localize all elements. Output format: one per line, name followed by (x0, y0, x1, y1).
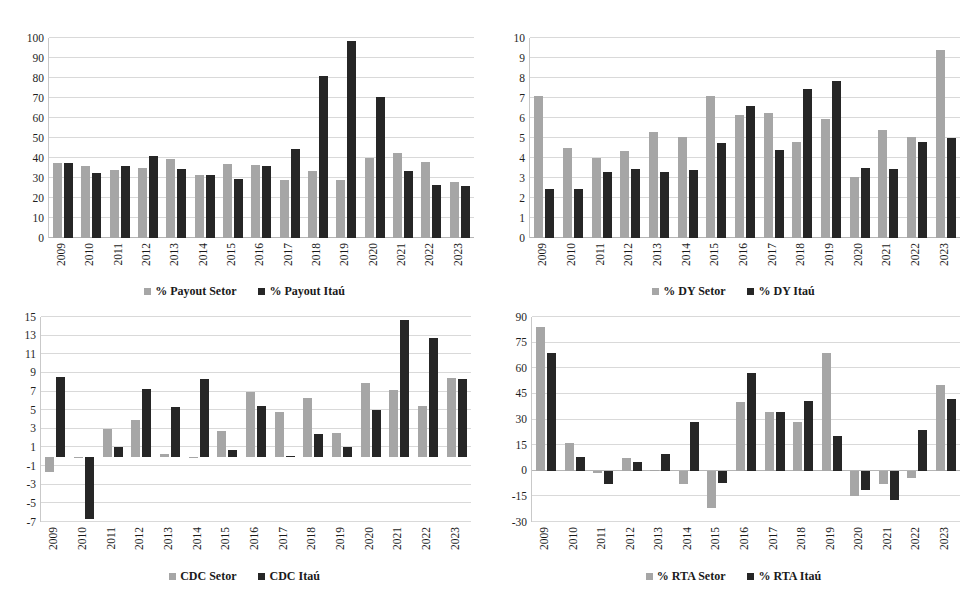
bar-group (442, 317, 471, 522)
legend-item[interactable]: % Payout Itaú (258, 284, 344, 299)
bar-setor (793, 422, 802, 471)
bar-group (789, 317, 818, 522)
y-tick-label: -5 (26, 498, 36, 510)
bar-itau (947, 399, 956, 471)
bar-itau (776, 412, 785, 471)
bar-setor (217, 431, 226, 457)
bar-setor (81, 166, 90, 238)
bar-setor (649, 132, 658, 238)
x-tick: 2010 (69, 525, 98, 563)
x-tick: 2012 (615, 241, 644, 279)
y-tick-label: 5 (519, 132, 525, 144)
bar-itau (718, 471, 727, 483)
bar-setor (878, 130, 887, 238)
bar-itau (114, 447, 123, 456)
bar-setor (308, 171, 317, 238)
x-tick: 2013 (645, 525, 674, 563)
legend-item[interactable]: CDC Setor (169, 569, 236, 584)
x-tick-label: 2010 (568, 527, 580, 550)
x-tick-label: 2017 (767, 243, 779, 266)
x-tick-label: 2013 (163, 527, 175, 550)
legend-item[interactable]: % RTA Setor (646, 569, 726, 584)
x-tick-label: 2010 (85, 243, 97, 266)
bar-group (385, 317, 414, 522)
bar-setor (907, 471, 916, 478)
bar-setor (189, 457, 198, 458)
bar-itau (461, 186, 470, 238)
x-tick-label: 2012 (625, 527, 637, 550)
x-tick: 2021 (388, 241, 416, 279)
x-tick: 2017 (269, 525, 298, 563)
chart-panel-rta: -30-150153045607590 20092010201120122013… (489, 307, 978, 615)
bar-itau (631, 169, 640, 238)
x-axis-labels-rta: 2009201020112012201320142015201620172018… (531, 525, 959, 563)
x-tick: 2009 (529, 241, 558, 279)
bar-setor (138, 168, 147, 238)
y-tick-label: 2 (519, 192, 525, 204)
x-tick-label: 2019 (340, 243, 352, 266)
bar-group (646, 317, 675, 522)
legend-item[interactable]: CDC Itaú (258, 569, 319, 584)
bar-itau (347, 41, 356, 238)
y-tick-label: 0 (519, 232, 525, 244)
legend-item[interactable]: % DY Itaú (747, 284, 814, 299)
y-tick-label: 7 (519, 92, 525, 104)
x-tick: 2015 (212, 525, 241, 563)
legend-swatch-setor (169, 573, 176, 580)
x-tick-label: 2020 (364, 527, 376, 550)
bar-group (134, 38, 162, 238)
bar-itau (661, 454, 670, 471)
bar-group (732, 317, 761, 522)
x-tick-label: 2018 (311, 243, 323, 266)
bar-setor (103, 429, 112, 457)
bar-itau (92, 173, 101, 238)
x-tick: 2011 (97, 525, 126, 563)
y-tick-label: 90 (33, 52, 45, 64)
legend-item[interactable]: % Payout Setor (144, 284, 236, 299)
x-tick-label: 2019 (825, 527, 837, 550)
bar-itau (429, 338, 438, 457)
bar-setor (361, 383, 370, 457)
y-tick-label: 4 (519, 152, 525, 164)
x-tick: 2019 (816, 241, 845, 279)
x-tick: 2011 (586, 241, 615, 279)
bar-group (645, 38, 674, 238)
y-tick-label: 0 (521, 465, 527, 477)
bar-setor (332, 433, 341, 457)
bar-group (731, 38, 760, 238)
x-tick-label: 2022 (421, 527, 433, 550)
y-axis-labels-rta: -30-150153045607590 (495, 317, 527, 522)
bar-itau (64, 163, 73, 238)
bar-itau (376, 97, 385, 238)
x-tick-label: 2023 (939, 243, 951, 266)
x-tick: 2010 (560, 525, 589, 563)
bar-group (184, 317, 213, 522)
bar-setor (280, 180, 289, 238)
bar-itau (286, 456, 295, 457)
legend-label: % Payout Itaú (269, 284, 344, 299)
bar-setor (622, 458, 631, 471)
bar-setor (166, 159, 175, 238)
bar-setor (650, 470, 659, 471)
bar-setor (822, 353, 831, 471)
legend-item[interactable]: % RTA Itaú (747, 569, 821, 584)
bar-itau (918, 142, 927, 238)
x-tick-label: 2019 (335, 527, 347, 550)
y-tick-label: 6 (519, 112, 525, 124)
y-tick-label: 11 (25, 349, 36, 361)
legend-swatch-setor (144, 288, 151, 295)
x-tick: 2019 (816, 525, 845, 563)
legend-item[interactable]: % DY Setor (652, 284, 725, 299)
x-tick-label: 2015 (710, 243, 722, 266)
bar-setor (879, 471, 888, 485)
bar-itau (149, 156, 158, 238)
bar-setor (736, 402, 745, 470)
x-tick-label: 2023 (939, 527, 951, 550)
bar-setor (706, 96, 715, 238)
x-tick-label: 2012 (624, 243, 636, 266)
legend-swatch-itau (258, 288, 265, 295)
bar-group (673, 38, 702, 238)
bar-itau (171, 407, 180, 456)
bar-itau (604, 471, 613, 485)
bar-group (127, 317, 156, 522)
